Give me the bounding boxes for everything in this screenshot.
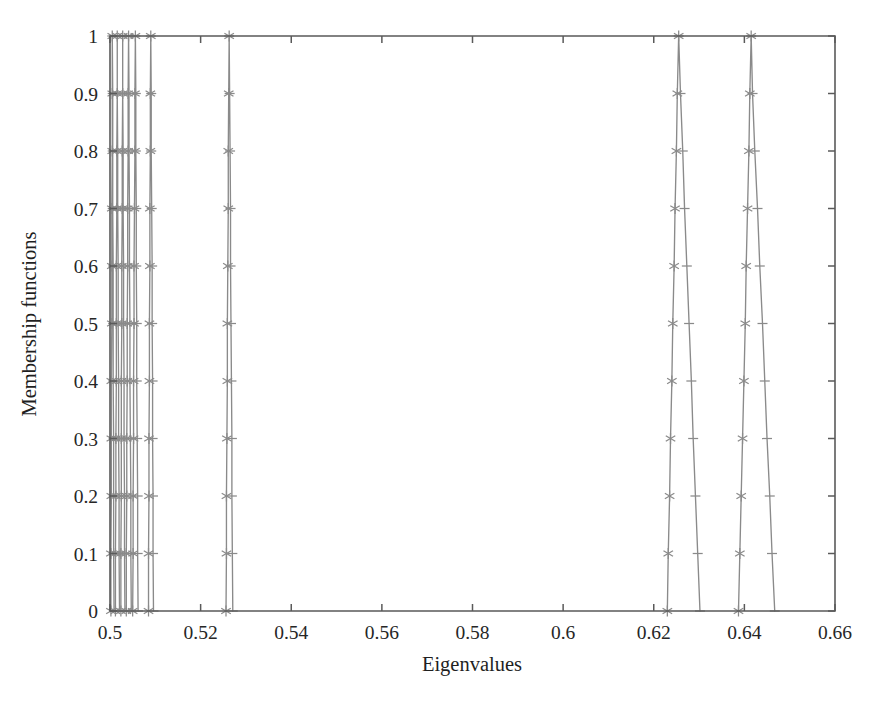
y-tick-label-6: 0.6 [74,256,99,277]
y-tick-label-2: 0.2 [74,486,98,507]
y-tick-label-0: 0 [88,601,98,622]
y-tick-label-4: 0.4 [74,371,99,392]
figure-container: 0.50.520.540.560.580.60.620.640.66 00.10… [0,0,890,707]
y-tick-label-10: 1 [88,26,98,47]
y-tick-label-9: 0.9 [74,84,98,105]
x-tick-label-5: 0.6 [551,622,576,643]
x-tick-label-2: 0.54 [274,622,308,643]
x-tick-label-1: 0.52 [184,622,218,643]
y-tick-label-7: 0.7 [74,199,99,220]
x-tick-labels: 0.50.520.540.560.580.60.620.640.66 [98,622,853,643]
y-tick-label-5: 0.5 [74,314,98,335]
x-axis-title: Eigenvalues [422,653,522,676]
y-tick-label-8: 0.8 [74,141,98,162]
x-tick-label-8: 0.66 [818,622,852,643]
y-tick-label-1: 0.1 [74,544,98,565]
x-tick-label-3: 0.56 [365,622,399,643]
y-axis-title: Membership functions [18,231,41,416]
x-tick-label-4: 0.58 [455,622,489,643]
x-tick-label-6: 0.62 [637,622,671,643]
x-tick-label-0: 0.5 [98,622,122,643]
x-tick-label-7: 0.64 [727,622,761,643]
membership-function-chart: 0.50.520.540.560.580.60.620.640.66 00.10… [0,0,890,707]
y-tick-label-3: 0.3 [74,429,98,450]
